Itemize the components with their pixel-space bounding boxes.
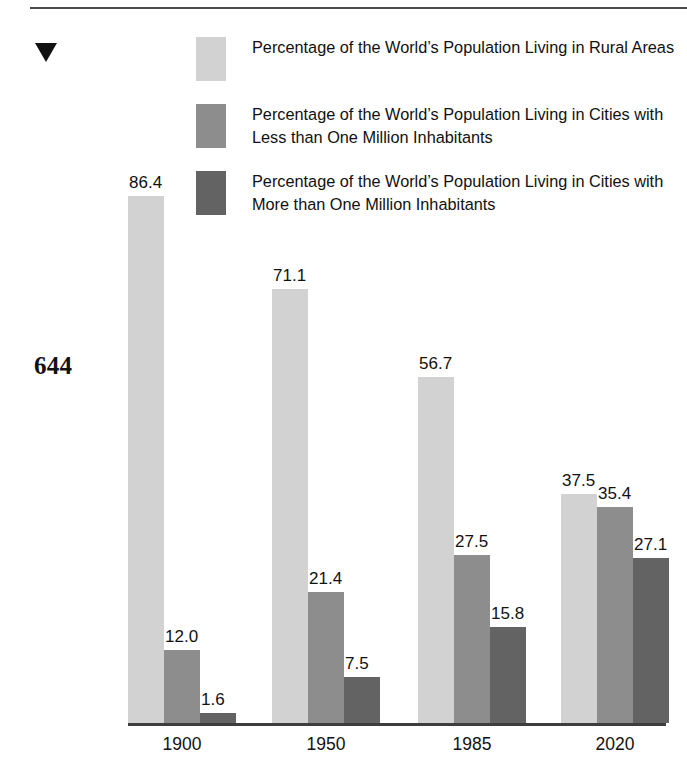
bar xyxy=(200,713,236,723)
bar-value-label: 7.5 xyxy=(345,654,369,674)
bar-value-label: 86.4 xyxy=(129,173,162,193)
bar xyxy=(633,558,669,723)
bar xyxy=(418,377,454,723)
x-axis-tick-label: 1900 xyxy=(128,734,236,755)
bar-value-label: 15.8 xyxy=(491,604,524,624)
x-axis-tick-label: 1985 xyxy=(418,734,526,755)
bar-chart-plot: 86.412.01.6190071.121.47.5195056.727.515… xyxy=(0,0,687,776)
bar-value-label: 27.1 xyxy=(634,535,667,555)
bar xyxy=(490,627,526,723)
bar-value-label: 35.4 xyxy=(598,484,631,504)
bar-value-label: 27.5 xyxy=(455,532,488,552)
bar xyxy=(454,555,490,723)
x-axis-line xyxy=(128,723,666,726)
bar xyxy=(164,650,200,723)
bar-value-label: 21.4 xyxy=(309,569,342,589)
x-axis-tick-label: 2020 xyxy=(561,734,669,755)
bar xyxy=(128,196,164,723)
bar-value-label: 1.6 xyxy=(201,690,225,710)
bar-value-label: 12.0 xyxy=(165,627,198,647)
x-axis-tick-label: 1950 xyxy=(272,734,380,755)
bar-value-label: 37.5 xyxy=(562,471,595,491)
bar xyxy=(561,494,597,723)
bar-value-label: 71.1 xyxy=(273,266,306,286)
bar xyxy=(308,592,344,723)
bar xyxy=(344,677,380,723)
bar xyxy=(272,289,308,723)
bar-value-label: 56.7 xyxy=(419,354,452,374)
bar xyxy=(597,507,633,723)
